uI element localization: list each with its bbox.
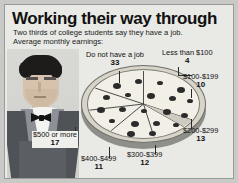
pepperoni <box>103 95 110 100</box>
waiter-illustration <box>7 49 79 178</box>
callout-400-499: $400-$499 11 <box>81 155 116 172</box>
leader-line-no-job <box>119 71 120 83</box>
pepperoni <box>169 96 176 101</box>
pepperoni <box>149 131 156 136</box>
pepperoni <box>113 83 121 89</box>
infographic-panel: Working their way through Two thirds of … <box>4 4 234 179</box>
waiter-eye-right <box>44 77 56 80</box>
callout-200-299-value: 13 <box>183 135 218 143</box>
pepperoni <box>147 93 155 99</box>
callout-less-100: Less than $100 4 <box>162 49 213 66</box>
pepperoni <box>153 121 160 126</box>
pepperoni <box>97 107 105 113</box>
waiter-hair-right <box>51 62 62 78</box>
waiter-hair-left <box>19 61 32 78</box>
leader-line-100-199 <box>191 89 192 98</box>
bow-tie-knot <box>39 115 44 121</box>
pepperoni <box>127 131 135 137</box>
callout-500-more: $500 or more 17 <box>32 131 78 148</box>
callout-400-499-value: 11 <box>81 163 116 171</box>
pepperoni <box>119 107 126 112</box>
callout-200-299: $200-$299 13 <box>183 127 218 144</box>
subtitle-line-2: Average monthly earnings: <box>13 38 231 47</box>
waiter-nose <box>38 82 41 92</box>
callout-no-job: Do not have a job 33 <box>86 51 144 68</box>
waiter-mouth <box>34 96 46 98</box>
callout-100-199: $100-$199 10 <box>183 73 218 90</box>
callout-300-399: $300-$399 12 <box>127 151 162 168</box>
pepperoni <box>135 79 142 84</box>
callout-no-job-value: 33 <box>86 59 144 67</box>
pepperoni <box>181 113 188 118</box>
pepperoni <box>131 121 139 127</box>
subtitle: Two thirds of college students say they … <box>13 29 231 46</box>
callout-300-399-value: 12 <box>127 159 162 167</box>
callout-less-100-value: 4 <box>162 57 213 65</box>
callout-100-199-value: 10 <box>183 81 218 89</box>
pepperoni <box>163 109 171 115</box>
page-title: Working their way through <box>12 9 217 29</box>
callout-500-more-value: 17 <box>33 139 77 147</box>
waiter-eye-left <box>26 77 38 80</box>
